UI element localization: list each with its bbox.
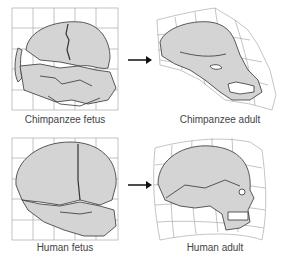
human-fetus-skull — [16, 142, 116, 236]
right-arrow-icon — [128, 181, 152, 189]
chimp-fetus-label: Chimpanzee fetus — [10, 114, 120, 125]
human-adult-label: Human adult — [160, 242, 270, 253]
right-arrow-icon — [128, 56, 152, 64]
human-fetus-label: Human fetus — [10, 242, 120, 253]
comparative-skull-diagram — [0, 0, 285, 262]
chimp-fetus-skull — [15, 22, 116, 106]
chimp-adult-label: Chimpanzee adult — [160, 114, 280, 125]
human-adult-skull — [158, 146, 254, 230]
